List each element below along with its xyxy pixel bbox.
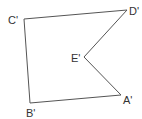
vertex-label-e: E' <box>71 52 80 64</box>
vertex-label-a: A' <box>123 94 132 106</box>
vertex-label-d: D' <box>129 5 139 17</box>
vertex-label-b: B' <box>26 107 35 119</box>
polygon-diagram: A' B' C' D' E' <box>0 0 142 119</box>
vertex-label-c: C' <box>8 14 18 26</box>
